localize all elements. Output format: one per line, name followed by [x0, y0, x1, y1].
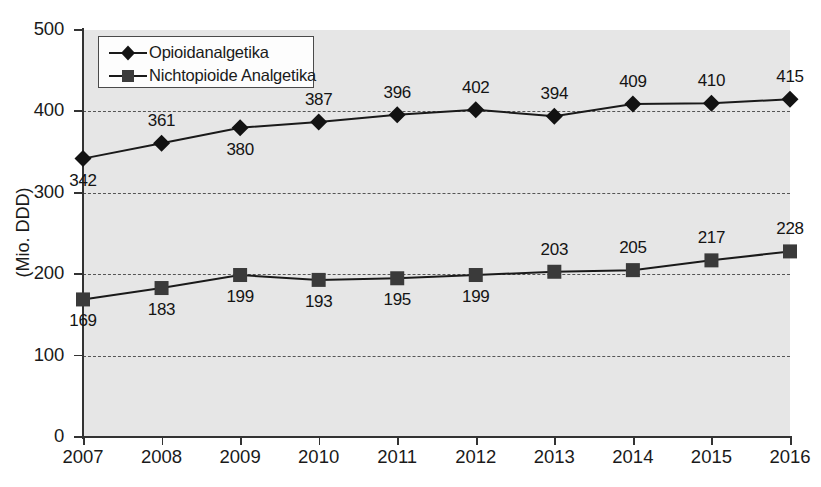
series-line-1 — [83, 251, 790, 299]
data-point-marker — [467, 101, 484, 118]
legend-entry-opioidanalgetika: Opioidanalgetika — [99, 41, 313, 64]
data-point-marker — [546, 108, 563, 125]
data-point-marker — [390, 271, 404, 285]
data-label-opioidanalgetika-2008: 361 — [127, 111, 197, 131]
data-point-marker — [233, 268, 247, 282]
data-label-nichtopioide-analgetika-2016: 228 — [755, 219, 821, 239]
legend-diamond-marker-icon — [107, 43, 149, 63]
data-point-marker — [783, 244, 797, 258]
data-label-nichtopioide-analgetika-2008: 183 — [127, 300, 197, 320]
chart-container: 0100200300400500 20072008200920102011201… — [0, 0, 821, 487]
data-label-opioidanalgetika-2015: 410 — [676, 71, 746, 91]
data-label-nichtopioide-analgetika-2014: 205 — [598, 238, 668, 258]
data-point-marker — [310, 113, 327, 130]
data-label-nichtopioide-analgetika-2007: 169 — [48, 311, 118, 331]
data-point-marker — [703, 95, 720, 112]
data-point-marker — [155, 281, 169, 295]
data-point-marker — [153, 135, 170, 152]
legend-square-marker-icon — [107, 66, 149, 86]
data-label-opioidanalgetika-2013: 394 — [519, 84, 589, 104]
data-label-nichtopioide-analgetika-2013: 203 — [519, 240, 589, 260]
data-label-opioidanalgetika-2014: 409 — [598, 72, 668, 92]
data-label-nichtopioide-analgetika-2015: 217 — [676, 228, 746, 248]
data-point-marker — [547, 265, 561, 279]
data-label-nichtopioide-analgetika-2009: 199 — [205, 287, 275, 307]
legend-label-nichtopioide-analgetika: Nichtopioide Analgetika — [149, 66, 316, 85]
data-point-marker — [389, 106, 406, 123]
data-point-marker — [76, 292, 90, 306]
data-point-marker — [75, 150, 92, 167]
legend-label-opioidanalgetika: Opioidanalgetika — [149, 43, 269, 62]
data-label-nichtopioide-analgetika-2010: 193 — [284, 292, 354, 312]
data-label-nichtopioide-analgetika-2011: 195 — [362, 290, 432, 310]
data-label-nichtopioide-analgetika-2012: 199 — [441, 287, 511, 307]
data-point-marker — [312, 273, 326, 287]
data-point-marker — [232, 119, 249, 136]
data-point-marker — [704, 253, 718, 267]
data-point-marker — [469, 268, 483, 282]
data-label-opioidanalgetika-2012: 402 — [441, 78, 511, 98]
chart-legend: Opioidanalgetika Nichtopioide Analgetika — [98, 36, 314, 88]
data-point-marker — [626, 263, 640, 277]
data-point-marker — [624, 96, 641, 113]
data-point-marker — [782, 91, 799, 108]
data-label-opioidanalgetika-2007: 342 — [48, 171, 118, 191]
data-label-opioidanalgetika-2010: 387 — [284, 90, 354, 110]
data-label-opioidanalgetika-2016: 415 — [755, 67, 821, 87]
legend-entry-nichtopioide-analgetika: Nichtopioide Analgetika — [99, 64, 313, 87]
data-label-opioidanalgetika-2011: 396 — [362, 83, 432, 103]
data-label-opioidanalgetika-2009: 380 — [205, 140, 275, 160]
